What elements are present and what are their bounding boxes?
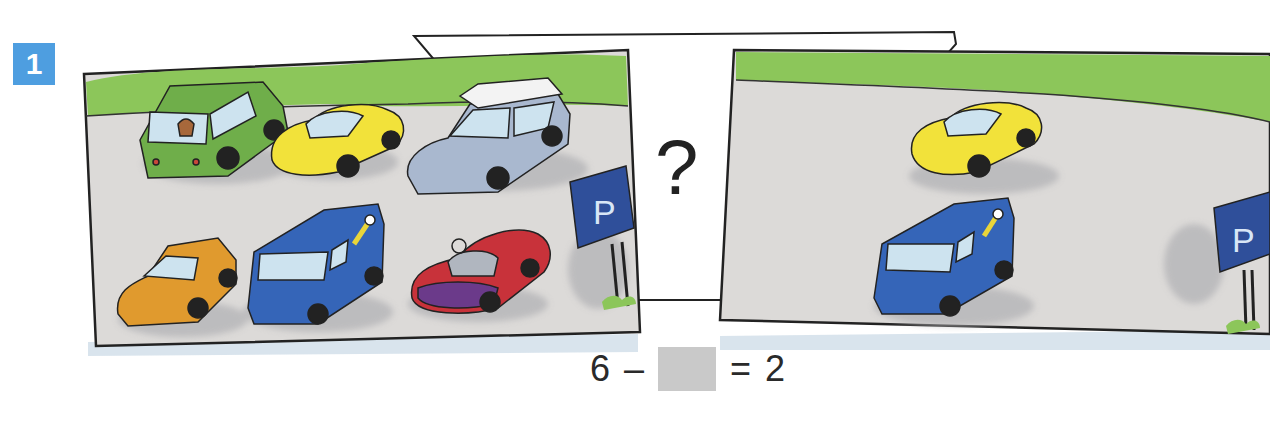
minus-sign: –: [616, 348, 652, 390]
right-parking-scene: P: [714, 44, 1270, 354]
exercise-number-badge: 1: [13, 43, 55, 85]
left-parking-scene: P: [78, 44, 648, 356]
equals-sign: =: [722, 348, 759, 390]
question-mark: ?: [655, 128, 698, 206]
svg-text:P: P: [1232, 221, 1255, 259]
subtraction-equation: 6 – = 2: [584, 345, 791, 393]
answer-blank[interactable]: [658, 347, 716, 391]
svg-text:P: P: [593, 193, 616, 231]
minuend: 6: [584, 348, 616, 390]
result: 2: [759, 348, 791, 390]
exercise-number: 1: [26, 47, 43, 81]
